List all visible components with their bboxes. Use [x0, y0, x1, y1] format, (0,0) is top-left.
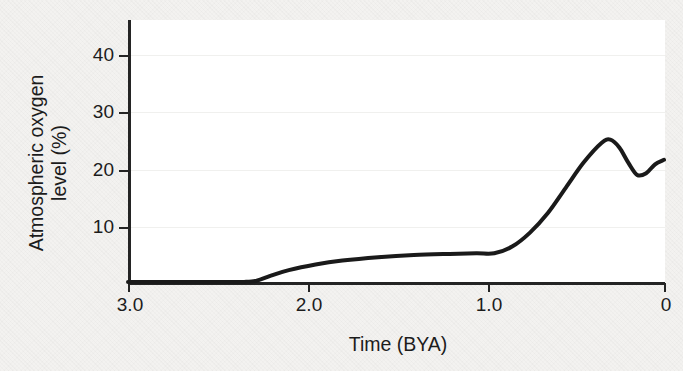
- x-tick-label-3: 3.0: [100, 294, 160, 316]
- y-tick-mark-30: [119, 112, 129, 114]
- gridline-30: [131, 112, 665, 113]
- x-tick-mark-2: [308, 283, 310, 292]
- y-tick-mark-40: [119, 55, 129, 57]
- oxygen-level-chart-figure: 40 30 20 10 3.0 2.0 1.0 0 Atmospheric ox…: [0, 0, 683, 371]
- x-tick-label-1: 1.0: [459, 294, 519, 316]
- x-tick-mark-3: [128, 283, 130, 292]
- y-axis-line: [128, 20, 131, 285]
- x-tick-label-2: 2.0: [279, 294, 339, 316]
- plot-area: [131, 20, 665, 283]
- y-tick-mark-10: [119, 227, 129, 229]
- y-axis-title-line2: level (%): [48, 33, 71, 293]
- x-axis-title: Time (BYA): [131, 333, 665, 356]
- gridline-40: [131, 55, 665, 56]
- x-axis-line: [128, 282, 665, 285]
- y-tick-mark-20: [119, 170, 129, 172]
- x-tick-mark-0: [664, 283, 666, 292]
- x-tick-mark-1: [488, 283, 490, 292]
- gridline-10: [131, 227, 665, 228]
- gridline-20: [131, 170, 665, 171]
- y-axis-title-line1: Atmospheric oxygen: [25, 33, 48, 293]
- y-axis-title: Atmospheric oxygen level (%): [25, 33, 71, 293]
- x-tick-label-0: 0: [636, 294, 683, 316]
